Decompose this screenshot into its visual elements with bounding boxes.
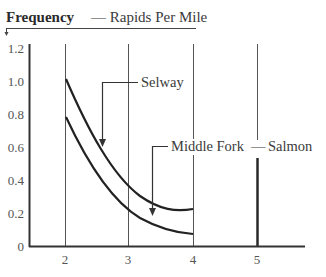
y-tick-0.4: 0.4 <box>8 173 25 188</box>
y-tick-0.6: 0.6 <box>8 140 25 155</box>
x-tick-4: 4 <box>190 252 197 267</box>
middle-fork-label: Middle Fork <box>171 138 245 154</box>
middle-fork-arrow-icon <box>149 208 156 216</box>
x-tick-2: 2 <box>62 252 69 267</box>
rapids-frequency-chart: Frequency — Rapids Per Mile 0 0.2 0.4 0.… <box>0 0 326 277</box>
x-tick-3: 3 <box>125 252 132 267</box>
title-bold: Frequency <box>6 9 75 25</box>
middle-fork-curve <box>66 117 193 234</box>
y-tick-1.0: 1.0 <box>8 74 24 89</box>
salmon-label: Salmon <box>268 138 313 154</box>
middle-fork-annotation: Middle Fork — Salmon <box>149 138 313 216</box>
x-tick-5: 5 <box>254 252 261 267</box>
y-tick-0.2: 0.2 <box>8 206 24 221</box>
y-tick-1.2: 1.2 <box>8 41 24 56</box>
selway-annotation: Selway <box>99 74 184 147</box>
selway-leader-line <box>103 83 139 141</box>
x-axis-labels: 2 3 4 5 <box>62 252 261 267</box>
selway-label: Selway <box>141 74 184 90</box>
chart-title: Frequency — Rapids Per Mile <box>5 9 208 36</box>
y-tick-0: 0 <box>18 239 25 254</box>
middle-fork-leader-line <box>153 147 169 210</box>
y-tick-0.8: 0.8 <box>8 107 24 122</box>
y-axis-labels: 0 0.2 0.4 0.6 0.8 1.0 1.2 <box>8 41 25 254</box>
dash-separator: — <box>250 138 266 154</box>
title-rest: — Rapids Per Mile <box>90 9 208 25</box>
title-arrow-icon <box>5 32 9 36</box>
